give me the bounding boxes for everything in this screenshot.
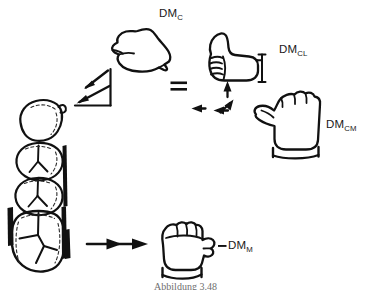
hand-dm-cl <box>209 33 265 82</box>
label-dm-c: DMC <box>159 8 183 20</box>
label-dm-c-sub: C <box>177 13 183 22</box>
arrow-right-pair <box>87 239 148 250</box>
equals-symbol <box>171 82 188 91</box>
label-dm-cl-base: DM <box>279 43 297 55</box>
tooth-1 <box>20 100 66 141</box>
hand-dm-cm <box>255 92 320 159</box>
dash-before-dm-m <box>218 245 227 247</box>
arrow-bent-left-up <box>214 100 234 115</box>
line-art-layer <box>0 0 371 290</box>
hand-dm-m <box>162 222 214 278</box>
label-dm-cm-sub: CM <box>344 124 356 133</box>
label-dm-cm-base: DM <box>326 118 344 130</box>
tooth-2 <box>16 143 62 180</box>
arrow-right-2 <box>118 239 148 250</box>
tooth-3 <box>15 178 62 215</box>
tooth-4 <box>12 211 65 272</box>
label-dm-cl: DMCL <box>279 44 307 56</box>
label-dm-m: DMM <box>228 240 253 252</box>
hand-dm-c <box>112 29 170 72</box>
label-dm-cm: DMCM <box>326 119 357 131</box>
label-dm-m-sub: M <box>246 245 253 254</box>
tooth-stack <box>8 100 71 272</box>
label-dm-m-base: DM <box>228 239 246 251</box>
arrow-up <box>224 81 232 97</box>
arrow-left <box>192 105 206 113</box>
figure-caption: Abbildung 3.48 <box>0 281 371 290</box>
arrow-down-left-pair <box>75 69 111 106</box>
label-dm-cl-sub: CL <box>297 49 307 58</box>
figure-canvas: DMC DMCL DMCM DMM Abbildung 3.48 <box>0 0 371 290</box>
label-dm-c-base: DM <box>159 7 177 19</box>
